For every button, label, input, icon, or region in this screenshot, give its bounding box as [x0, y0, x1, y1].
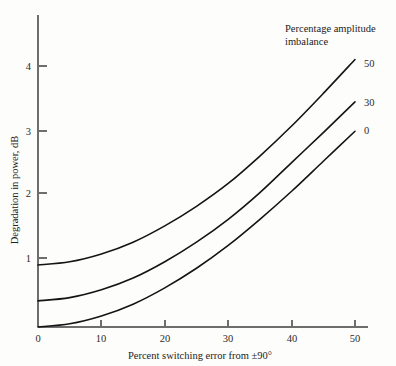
curve-label-50: 50	[364, 58, 375, 69]
curve-label-30: 30	[364, 97, 375, 108]
legend-title-line2: imbalance	[285, 36, 328, 47]
curve-series-0	[38, 131, 355, 327]
x-tick-label: 30	[223, 333, 234, 344]
legend-title-group: Percentage amplitude imbalance	[285, 23, 376, 47]
x-tick-label: 40	[287, 333, 298, 344]
y-tick-label: 4	[26, 61, 32, 72]
y-tick-label: 1	[26, 253, 31, 264]
x-tick-label: 0	[35, 333, 40, 344]
y-tick-label: 2	[26, 188, 31, 199]
y-tick-label: 3	[26, 126, 31, 137]
legend-title-line1: Percentage amplitude	[285, 23, 376, 34]
x-tick-group: 0 10 20 30 40 50	[35, 320, 360, 344]
x-tick-label: 10	[96, 333, 107, 344]
y-axis-title: Degradation in power, dB	[9, 136, 20, 245]
curve-series-30	[38, 102, 355, 301]
chart-figure: 4 3 2 1 0 10 20 30 40 50 Percent switchi…	[0, 0, 396, 366]
curve-label-group: 50 30 0	[364, 58, 375, 136]
curve-group	[38, 59, 355, 327]
x-tick-label: 50	[350, 333, 361, 344]
x-axis-title: Percent switching error from ±90°	[128, 350, 272, 361]
curve-series-50	[38, 59, 355, 265]
x-tick-label: 20	[160, 333, 171, 344]
y-tick-group: 4 3 2 1	[26, 61, 47, 264]
axis-group	[38, 15, 368, 327]
curve-label-0: 0	[364, 125, 369, 136]
chart-svg: 4 3 2 1 0 10 20 30 40 50 Percent switchi…	[0, 0, 396, 366]
